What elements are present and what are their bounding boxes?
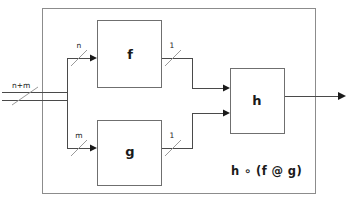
- g-input-label: m: [75, 131, 82, 140]
- f-input-label: n: [77, 41, 82, 50]
- g-output-label: 1: [170, 131, 175, 140]
- block-g-label: g: [125, 144, 134, 159]
- h-input-bottom-arrowhead: [223, 110, 230, 117]
- block-h-label: h: [252, 93, 261, 108]
- input-bus-label: n+m: [12, 81, 30, 90]
- g-input-wire: [67, 140, 97, 156]
- f-output-wire: [162, 50, 230, 92]
- g-input-arrowhead: [90, 145, 97, 152]
- block-diagram: n+m n m f g 1: [0, 0, 351, 204]
- diagram-canvas: n+m n m f g 1: [0, 0, 351, 204]
- block-f-label: f: [127, 47, 133, 62]
- h-input-top-arrowhead: [223, 85, 230, 92]
- f-output-label: 1: [170, 41, 175, 50]
- f-input-arrowhead: [90, 55, 97, 62]
- output-arrowhead: [338, 92, 346, 100]
- formula-caption: h ∘ (f @ g): [231, 164, 302, 178]
- f-input-wire: [67, 50, 97, 66]
